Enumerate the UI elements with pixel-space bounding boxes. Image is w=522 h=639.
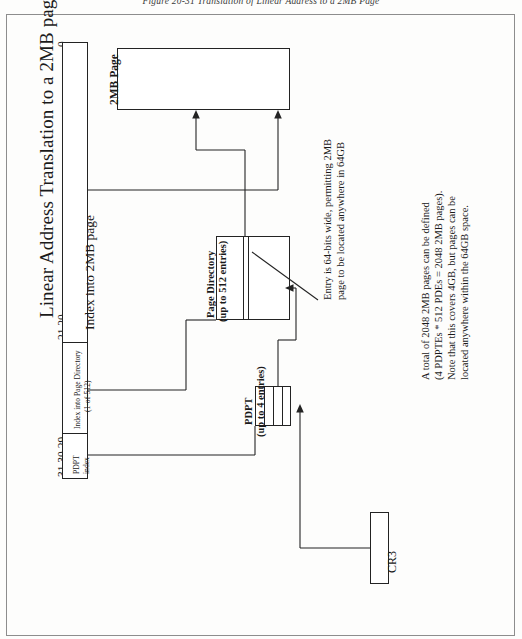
entry-note-line-1: Entry is 64-bits wide, permitting 2MB xyxy=(322,139,335,300)
figure-page: Figure 20-31 Translation of Linear Addre… xyxy=(0,0,522,639)
capacity-note-line-4: located anywhere within the 64GB space. xyxy=(459,205,472,380)
entry-note-line-2: page to be located anywhere in 64GB xyxy=(335,142,348,300)
capacity-note-line-1: A total of 2048 2MB pages can be defined xyxy=(420,202,433,380)
capacity-note-line-3: Note that this covers 4GB, but pages can… xyxy=(446,196,459,380)
capacity-note-line-2: (4 PDPTEs * 512 PDEs = 2048 2MB pages). xyxy=(433,191,446,380)
